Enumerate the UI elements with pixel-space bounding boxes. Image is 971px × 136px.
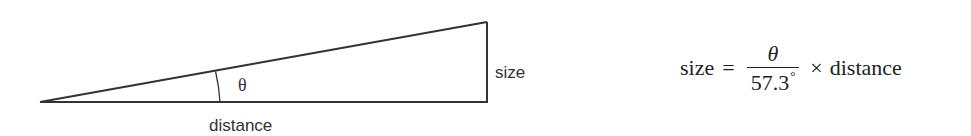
fraction-denominator: 57.3° [747,68,800,94]
angle-theta-label: θ [238,76,247,94]
fraction-numerator: θ [764,42,783,67]
formula-rhs: distance [830,55,902,81]
angle-arc [216,72,220,103]
denominator-value: 57.3 [751,70,790,95]
formula-equals: = [722,55,734,81]
small-angle-formula: size = θ 57.3° × distance [680,28,902,108]
formula-fraction: θ 57.3° [747,42,800,95]
formula-times: × [810,55,822,81]
degree-symbol: ° [790,68,795,83]
size-label: size [495,64,525,81]
distance-label: distance [209,117,272,134]
formula-lhs: size [680,55,714,81]
hypotenuse-line [40,22,487,102]
